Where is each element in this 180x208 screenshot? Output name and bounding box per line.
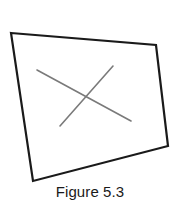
figure-container: Figure 5.3 xyxy=(0,0,180,208)
figure-drawing xyxy=(0,0,180,208)
tilted-rectangle-outline xyxy=(11,33,168,181)
figure-caption: Figure 5.3 xyxy=(0,183,180,201)
